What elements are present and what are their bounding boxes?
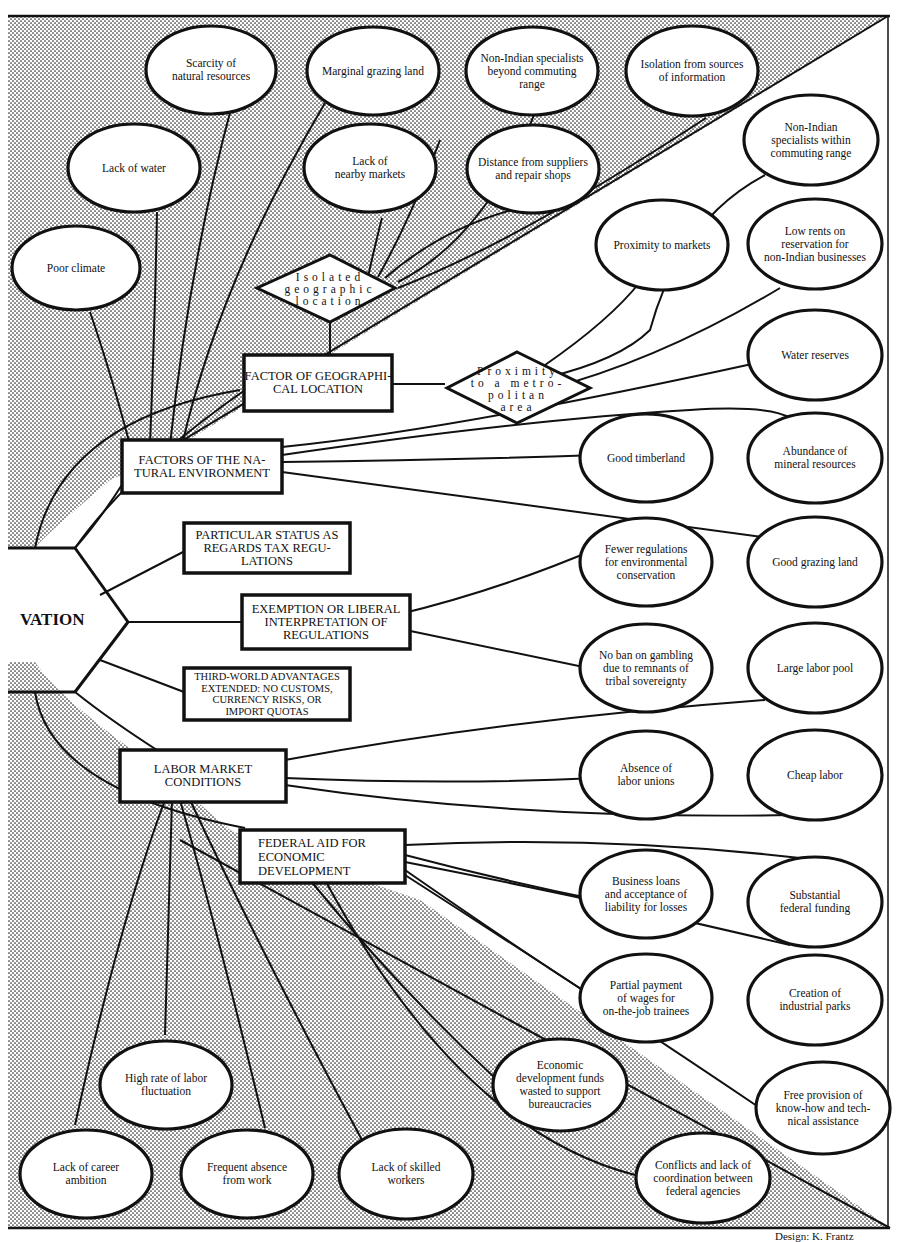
node-good-grazing-land: Good grazing land	[748, 517, 882, 607]
factor-labor-market: LABOR MARKET CONDITIONS	[120, 750, 286, 802]
node-distance-from-suppliers: Distance from suppliers and repair shops	[467, 125, 599, 213]
node-mineral-resources: Abundance of mineral resources	[748, 413, 882, 503]
node-funds-wasted: Economic development funds wasted to sup…	[493, 1039, 627, 1131]
node-cheap-labor: Cheap labor	[748, 730, 882, 820]
factor-third-world-advantages: THIRD-WORLD ADVANTAGES EXTENDED: NO CUST…	[184, 668, 350, 720]
diamond-label-isolated: Isolated geographic location	[262, 262, 398, 316]
hub-label: VATION	[0, 597, 140, 641]
node-lack-nearby-markets: Lack of nearby markets	[304, 124, 436, 212]
node-career-ambition: Lack of career ambition	[20, 1130, 152, 1218]
node-water-reserves: Water reserves	[748, 310, 882, 400]
node-federal-funding: Substantial federal funding	[748, 857, 882, 947]
node-no-gambling-ban: No ban on gambling due to remnants of tr…	[580, 624, 712, 712]
node-scarcity-natural-resources: Scarcity of natural resources	[146, 26, 276, 114]
node-absence-labor-unions: Absence of labor unions	[580, 731, 712, 819]
factor-tax-status: PARTICULAR STATUS AS REGARDS TAX REGU- L…	[184, 523, 350, 573]
node-specialists-beyond-range: Non-Indian specialists beyond commuting …	[466, 27, 598, 115]
node-know-how: Free provision of know-how and tech- nic…	[756, 1062, 890, 1154]
node-specialists-within-range: Non-Indian specialists within commuting …	[744, 95, 878, 185]
node-agency-conflicts: Conflicts and lack of coordination betwe…	[636, 1133, 770, 1223]
node-low-rents: Low rents on reservation for non-Indian …	[748, 199, 882, 289]
factor-natural-environment: FACTORS OF THE NA- TURAL ENVIRONMENT	[122, 440, 282, 493]
node-industrial-parks: Creation of industrial parks	[748, 955, 882, 1045]
node-lack-of-water: Lack of water	[68, 124, 200, 212]
node-fewer-regulations: Fewer regulations for environmental cons…	[580, 518, 712, 606]
factor-regulations: EXEMPTION OR LIBERAL INTERPRETATION OF R…	[242, 595, 410, 649]
node-good-timberland: Good timberland	[580, 414, 712, 502]
node-business-loans: Business loans and acceptance of liabili…	[580, 850, 712, 938]
node-partial-wages: Partial payment of wages for on-the-job …	[580, 954, 712, 1042]
diamond-label-proximity: Proximity to a metro- politan area	[450, 357, 586, 421]
node-proximity-to-markets: Proximity to markets	[596, 200, 728, 290]
node-absence-from-work: Frequent absence from work	[181, 1130, 313, 1218]
node-skilled-workers: Lack of skilled workers	[339, 1129, 473, 1219]
node-marginal-grazing-land: Marginal grazing land	[307, 27, 439, 115]
node-poor-climate: Poor climate	[12, 226, 140, 310]
node-labor-fluctuation: High rate of labor fluctuation	[100, 1041, 232, 1129]
factor-geographical-location: FACTOR OF GEOGRAPHI- CAL LOCATION	[244, 355, 392, 411]
node-large-labor-pool: Large labor pool	[748, 623, 882, 713]
design-credit: Design: K. Frantz	[775, 1230, 854, 1242]
factor-federal-aid: FEDERAL AID FOR ECONOMIC DEVELOPMENT	[240, 830, 423, 883]
node-isolation-information: Isolation from sources of information	[626, 26, 758, 116]
